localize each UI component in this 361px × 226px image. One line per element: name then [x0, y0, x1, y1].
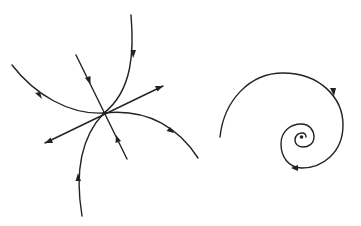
- phase-portrait-figure: [0, 0, 361, 226]
- phase-portrait-svg: [0, 0, 361, 226]
- trajectory-right: [104, 112, 198, 158]
- arrow-steep-lower-icon: [116, 135, 122, 143]
- arrow-steep-upper-icon: [85, 76, 91, 85]
- trajectory-left: [12, 65, 104, 113]
- critical-point-focus: [300, 135, 304, 139]
- trajectory-top: [104, 15, 132, 113]
- critical-point-node: [102, 111, 105, 114]
- trajectory-bottom: [79, 113, 104, 216]
- spiral-portrait: [220, 73, 343, 171]
- node-portrait: [12, 15, 198, 216]
- arrow-bottom-icon: [76, 173, 82, 181]
- trajectory-spiral: [220, 73, 343, 168]
